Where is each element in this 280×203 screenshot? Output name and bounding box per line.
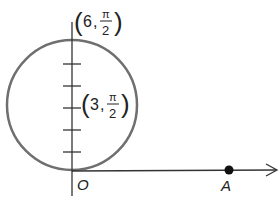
- svg-text:π: π: [109, 91, 117, 103]
- label-top-point: ( 6 , π 2 ): [74, 7, 123, 38]
- svg-text:2: 2: [102, 23, 109, 38]
- svg-text:π: π: [102, 8, 110, 20]
- svg-text:(: (: [74, 7, 83, 37]
- svg-text:,: ,: [100, 96, 104, 113]
- svg-text:3: 3: [90, 96, 99, 113]
- svg-text:2: 2: [109, 106, 116, 121]
- origin-label: O: [77, 176, 89, 193]
- svg-text:,: ,: [93, 13, 97, 30]
- point-a-dot: [225, 166, 234, 175]
- point-a-label: A: [220, 177, 231, 194]
- polar-diagram: ( 6 , π 2 ) ( 3 , π 2 ) O A: [0, 0, 280, 203]
- label-center-point: ( 3 , π 2 ): [81, 89, 130, 121]
- svg-text:): ): [114, 7, 123, 37]
- svg-text:6: 6: [83, 13, 92, 30]
- svg-text:(: (: [81, 89, 90, 119]
- polar-axis: [72, 170, 276, 171]
- svg-text:): ): [121, 89, 130, 119]
